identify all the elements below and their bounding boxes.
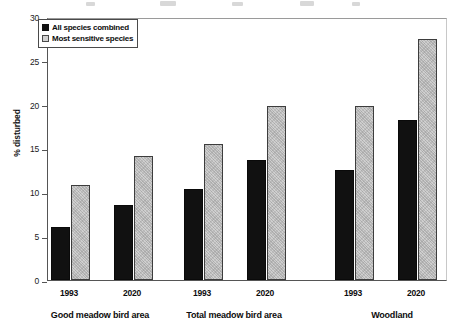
y-tick-label: 10 xyxy=(30,188,39,199)
bar xyxy=(418,39,437,280)
y-tick-label: 5 xyxy=(34,232,39,243)
x-year-label: 1993 xyxy=(344,288,362,298)
y-tick-label: 20 xyxy=(30,101,39,112)
y-tick-0: 0 xyxy=(0,281,47,282)
legend-item-label: Most sensitive species xyxy=(52,34,133,44)
x-year-label: 1993 xyxy=(60,288,78,298)
bar xyxy=(247,160,266,280)
legend-swatch-icon xyxy=(42,35,49,42)
cropped-header-artifact xyxy=(0,0,459,12)
bar xyxy=(335,170,354,280)
y-tick-10: 10 xyxy=(0,193,47,194)
y-tick-5: 5 xyxy=(0,237,47,238)
y-tick-20: 20 xyxy=(0,106,47,107)
y-axis-title: % disturbed xyxy=(12,83,22,183)
bar xyxy=(267,106,286,280)
y-tick-mark xyxy=(42,282,47,283)
x-year-label: 1993 xyxy=(193,288,211,298)
bar xyxy=(134,156,153,280)
bar xyxy=(204,144,223,280)
bar xyxy=(51,227,70,280)
legend: All species combined Most sensitive spec… xyxy=(38,19,138,48)
x-group-label-total-meadow-bird-area: Total meadow bird area xyxy=(186,310,281,320)
y-tick-label: 25 xyxy=(30,57,39,68)
legend-item-all-species: All species combined xyxy=(42,22,133,33)
y-tick-label: 15 xyxy=(30,144,39,155)
bar xyxy=(355,106,374,280)
legend-item-most-sensitive-species: Most sensitive species xyxy=(42,33,133,44)
x-year-label: 2020 xyxy=(407,288,425,298)
x-year-label: 2020 xyxy=(123,288,141,298)
bar xyxy=(114,205,133,280)
legend-item-label: All species combined xyxy=(52,23,129,33)
bar xyxy=(71,185,90,280)
legend-swatch-icon xyxy=(42,24,49,31)
x-group-label-good-meadow-bird-area: Good meadow bird area xyxy=(51,310,149,320)
bar xyxy=(398,120,417,280)
x-year-label: 2020 xyxy=(256,288,274,298)
plot-area xyxy=(47,18,447,281)
x-group-label-woodland: Woodland xyxy=(371,310,413,320)
bar xyxy=(184,189,203,280)
y-tick-label: 0 xyxy=(34,276,39,287)
y-tick-15: 15 xyxy=(0,149,47,150)
bar-chart: 30 25 20 15 10 5 0 % disturbed xyxy=(0,0,459,329)
y-tick-25: 25 xyxy=(0,62,47,63)
